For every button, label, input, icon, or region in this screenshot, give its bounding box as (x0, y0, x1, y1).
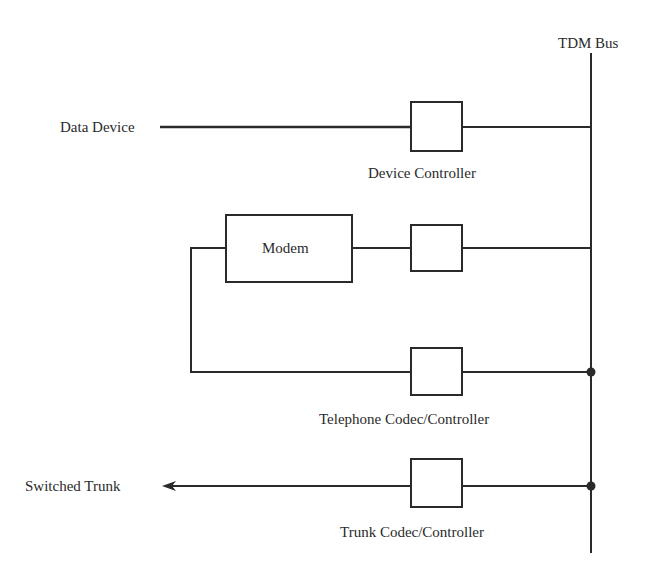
trunk-codec-box (411, 459, 462, 507)
telephone-codec-label: Telephone Codec/Controller (319, 412, 489, 427)
switched-trunk-label: Switched Trunk (25, 479, 120, 494)
junction-dot-trunk (587, 482, 596, 491)
data-device-label: Data Device (60, 120, 135, 135)
device-controller-box (411, 102, 462, 151)
junction-dot-telephone (587, 368, 596, 377)
tdm-bus-label: TDM Bus (558, 36, 618, 51)
diagram-canvas (0, 0, 666, 582)
modem-controller-box (411, 225, 462, 271)
modem-label: Modem (262, 241, 309, 256)
telephone-codec-box (411, 348, 462, 395)
device-controller-label: Device Controller (368, 166, 476, 181)
trunk-codec-label: Trunk Codec/Controller (340, 525, 484, 540)
